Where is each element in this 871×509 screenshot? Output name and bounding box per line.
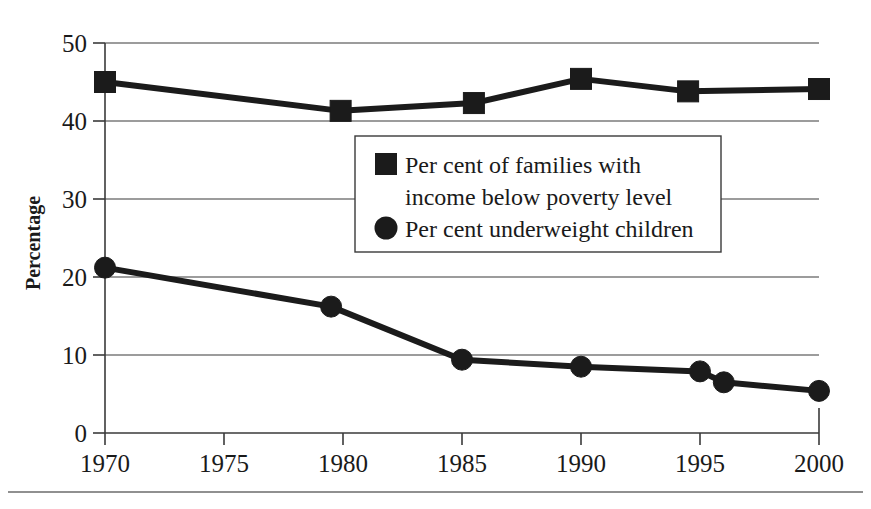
line-chart: 01020304050 1970197519801985199019952000… — [0, 0, 871, 509]
y-axis-title: Percentage — [22, 196, 45, 290]
y-tick-label-0: 0 — [75, 420, 88, 447]
circle-marker-icon — [571, 356, 592, 377]
y-axis-title-text: Percentage — [22, 196, 45, 290]
circle-marker-icon — [690, 361, 711, 382]
square-marker-icon — [95, 72, 116, 93]
circle-marker-icon — [713, 372, 734, 393]
y-tick-label-20: 20 — [62, 264, 87, 291]
circle-marker-icon — [95, 257, 116, 278]
circle-marker-icon — [452, 349, 473, 370]
x-tick-label-1970: 1970 — [80, 450, 130, 477]
legend-label-line1: Per cent of families with — [405, 152, 641, 178]
square-marker-icon — [463, 93, 484, 114]
x-tick-label-1990: 1990 — [556, 450, 606, 477]
x-tick-label-1975: 1975 — [199, 450, 249, 477]
circle-marker-icon — [809, 380, 830, 401]
legend-label-line1: Per cent underweight children — [405, 216, 694, 242]
legend-entry-2: Per cent underweight children — [375, 216, 694, 242]
y-tick-label-40: 40 — [62, 108, 87, 135]
x-tick-label-1985: 1985 — [437, 450, 487, 477]
x-tick-label-2000: 2000 — [794, 450, 844, 477]
y-tick-label-50: 50 — [62, 30, 87, 57]
circle-marker-icon — [375, 217, 398, 240]
square-marker-icon — [571, 68, 592, 89]
square-marker-icon — [809, 79, 830, 100]
y-tick-label-10: 10 — [62, 342, 87, 369]
circle-marker-icon — [321, 296, 342, 317]
square-marker-icon — [375, 153, 397, 175]
chart-legend: Per cent of families withincome below po… — [355, 136, 721, 252]
square-marker-icon — [678, 81, 699, 102]
chart-figure: 01020304050 1970197519801985199019952000… — [0, 0, 871, 509]
legend-label-line2: income below poverty level — [405, 184, 673, 210]
x-tick-label-1995: 1995 — [675, 450, 725, 477]
square-marker-icon — [330, 100, 351, 121]
x-tick-label-1980: 1980 — [318, 450, 368, 477]
y-tick-label-30: 30 — [62, 186, 87, 213]
x-axis-ticks-group: 1970197519801985199019952000 — [80, 433, 844, 477]
